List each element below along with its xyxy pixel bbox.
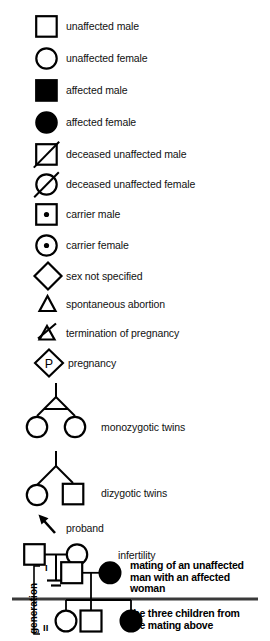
annotation-children: the three children from the mating above [130, 608, 240, 631]
symbol-carrier-male [35, 203, 59, 227]
label-deceased-unaffected-male: deceased unaffected male [66, 148, 187, 160]
generation-row-I: I [45, 562, 48, 573]
label-carrier-male: carrier male [66, 208, 120, 220]
label-affected-female: affected female [66, 116, 136, 128]
symbol-termination-of-pregnancy [36, 321, 60, 345]
pedigree-legend: unaffected male unaffected female affect… [0, 0, 270, 641]
symbol-sex-not-specified [33, 261, 63, 291]
label-spontaneous-abortion: spontaneous abortion [66, 298, 165, 310]
label-unaffected-male: unaffected male [66, 20, 139, 32]
individual-child-2 [81, 611, 102, 632]
label-unaffected-female: unaffected female [66, 52, 148, 64]
label-dizygotic-twins: dizygotic twins [101, 487, 167, 499]
label-termination-of-pregnancy: termination of pregnancy [66, 327, 179, 339]
symbol-deceased-unaffected-female [33, 171, 61, 199]
individual-child-1 [56, 611, 77, 632]
symbol-carrier-female [35, 234, 59, 258]
pregnancy-letter: P [45, 357, 53, 371]
individual-father [61, 562, 82, 583]
symbol-unaffected-female [35, 47, 59, 71]
symbol-unaffected-male [35, 15, 59, 39]
label-monozygotic-twins: monozygotic twins [101, 421, 185, 433]
symbol-affected-male [35, 79, 59, 103]
symbol-proband-arrow [34, 511, 60, 537]
symbol-monozygotic-twins [18, 382, 96, 444]
label-sex-not-specified: sex not specified [66, 270, 143, 282]
generation-row-II: II [43, 622, 48, 633]
symbol-deceased-unaffected-male [33, 141, 61, 169]
symbol-pregnancy: P [33, 348, 65, 378]
label-carrier-female: carrier female [66, 239, 129, 251]
individual-mother [100, 562, 121, 583]
label-deceased-unaffected-female: deceased unaffected female [66, 178, 195, 190]
label-proband: proband [66, 522, 104, 534]
symbol-spontaneous-abortion [37, 293, 59, 315]
label-affected-male: affected male [66, 84, 128, 96]
annotation-mating: mating of an unaffected man with an affe… [130, 560, 244, 595]
symbol-affected-female [35, 111, 59, 135]
symbol-dizygotic-twins [18, 450, 96, 510]
label-pregnancy: pregnancy [68, 357, 116, 369]
